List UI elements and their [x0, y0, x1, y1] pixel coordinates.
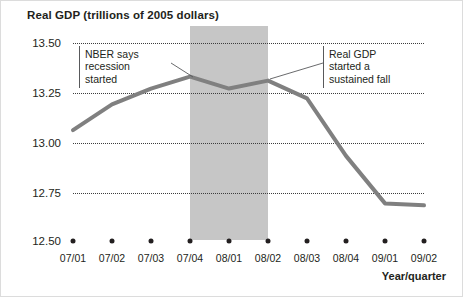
chart-figure: Real GDP (trillions of 2005 dollars) 13.… [0, 0, 463, 297]
x-axis-title: Year/quarter [382, 270, 446, 282]
y-axis-tick-labels: 13.50 13.25 13.00 12.75 12.50 [13, 43, 61, 241]
x-axis-tick-label: 07/02 [99, 252, 125, 264]
x-axis-tick-dot [110, 239, 115, 244]
x-axis-tick-dot [227, 239, 232, 244]
x-axis-tick-label: 07/03 [138, 252, 164, 264]
annotation-nber-line-3: started [85, 73, 139, 85]
x-axis-tick-label: 08/02 [255, 252, 281, 264]
gridline [73, 193, 424, 194]
gridline [73, 43, 424, 44]
annotation-fall-line-1: Real GDP [329, 48, 390, 60]
x-axis-tick-label: 08/04 [333, 252, 359, 264]
annotation-sustained-fall: Real GDP started a sustained fall [323, 46, 396, 88]
x-axis-line [73, 240, 424, 241]
x-axis-tick-dot [71, 239, 76, 244]
x-axis-tick-label: 07/01 [60, 252, 86, 264]
x-axis-tick-label: 09/02 [411, 252, 437, 264]
y-axis-tick-label: 13.00 [17, 137, 61, 149]
gridline [73, 93, 424, 94]
x-axis-tick-label: 07/04 [177, 252, 203, 264]
y-axis-tick-label: 12.50 [17, 235, 61, 247]
y-axis-tick-label: 13.25 [17, 87, 61, 99]
x-axis-tick-dot [188, 239, 193, 244]
recession-shaded-region [190, 26, 268, 241]
x-axis-tick-dot [149, 239, 154, 244]
x-axis-tick-dot [344, 239, 349, 244]
gridline [73, 143, 424, 144]
annotation-nber-line-2: recession [85, 60, 139, 72]
annotation-nber: NBER says recession started [79, 46, 145, 88]
x-axis-tick-dot [422, 239, 427, 244]
annotation-fall-line-3: sustained fall [329, 73, 390, 85]
x-axis-tick-label: 08/03 [294, 252, 320, 264]
x-axis-tick-label: 09/01 [372, 252, 398, 264]
x-axis-tick-label: 08/01 [216, 252, 242, 264]
chart-title: Real GDP (trillions of 2005 dollars) [27, 9, 219, 21]
annotation-nber-line-1: NBER says [85, 48, 139, 60]
annotation-fall-line-2: started a [329, 60, 390, 72]
x-axis-tick-dot [383, 239, 388, 244]
x-axis-tick-dot [266, 239, 271, 244]
x-axis-tick-dot [305, 239, 310, 244]
y-axis-tick-label: 12.75 [17, 187, 61, 199]
y-axis-tick-label: 13.50 [17, 37, 61, 49]
